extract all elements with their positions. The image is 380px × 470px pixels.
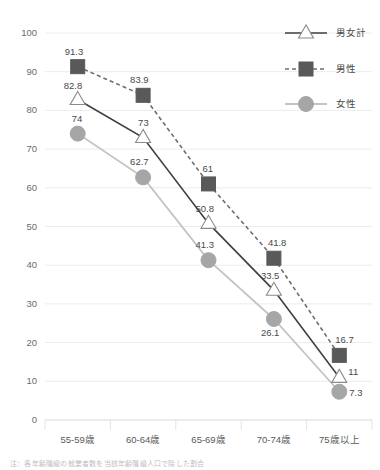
data-point-label: 41.3 [196, 239, 215, 250]
data-point-square [202, 177, 216, 191]
data-point-label: 73 [138, 117, 149, 128]
data-point-square [332, 348, 346, 362]
legend-marker-square [299, 62, 313, 76]
x-separators-group [45, 420, 372, 430]
data-point-label: 41.8 [268, 237, 287, 248]
data-point-circle [332, 384, 347, 399]
data-point-square [71, 60, 85, 74]
legend-marker-triangle [299, 25, 314, 38]
y-axis-tick-label: 40 [26, 259, 37, 270]
x-axis-ticks-group: 55-59歳60-64歳65-69歳70-74歳75歳以上 [61, 434, 360, 445]
x-axis-tick-label: 75歳以上 [319, 434, 360, 445]
data-point-label: 7.3 [349, 387, 362, 398]
legend-item-label: 女性 [336, 98, 356, 109]
point-labels-group: 82.87350.833.51191.383.96141.816.77462.7… [64, 46, 363, 398]
x-axis-tick-label: 60-64歳 [126, 434, 160, 445]
y-axis-tick-label: 80 [26, 104, 37, 115]
legend-item-label: 男女計 [336, 27, 366, 38]
data-point-label: 83.9 [130, 74, 149, 85]
x-axis-tick-label: 55-59歳 [61, 434, 95, 445]
data-point-label: 62.7 [130, 156, 149, 167]
data-point-triangle [136, 129, 151, 142]
legend-item-label: 男性 [336, 63, 356, 74]
data-point-label: 26.1 [261, 327, 280, 338]
y-axis-tick-label: 100 [21, 27, 37, 38]
data-point-label: 11 [348, 366, 358, 377]
data-point-circle [136, 170, 151, 185]
y-axis-tick-label: 60 [26, 182, 37, 193]
y-axis-tick-label: 20 [26, 337, 37, 348]
x-axis-tick-label: 65-69歳 [191, 434, 225, 445]
y-axis-tick-label: 10 [26, 375, 37, 386]
data-point-label: 74 [72, 113, 83, 124]
legend: 男女計男性女性 [285, 25, 366, 112]
data-point-label: 61 [203, 163, 214, 174]
y-axis-tick-label: 30 [26, 298, 37, 309]
data-point-label: 82.8 [64, 80, 82, 91]
data-point-label: 33.5 [261, 270, 280, 281]
x-axis-tick-label: 70-74歳 [257, 434, 291, 445]
y-axis-tick-label: 70 [26, 143, 37, 154]
y-axis-tick-label: 0 [32, 414, 37, 425]
data-point-triangle [70, 92, 85, 105]
data-point-label: 16.7 [335, 334, 354, 345]
legend-marker-circle [299, 97, 314, 112]
data-point-circle [70, 126, 85, 141]
data-point-label: 50.8 [196, 203, 215, 214]
y-axis-tick-label: 50 [26, 221, 37, 232]
line-chart: 0102030405060708090100 55-59歳60-64歳65-69… [0, 0, 380, 470]
chart-footnote: 注：各年齢階級の就業者数を当該年齢階級人口で除した割合 [10, 458, 204, 468]
data-point-square [267, 251, 281, 265]
chart-container: 0102030405060708090100 55-59歳60-64歳65-69… [0, 0, 380, 470]
y-axis-tick-label: 90 [26, 66, 37, 77]
data-point-square [136, 88, 150, 102]
data-point-circle [201, 253, 216, 268]
data-point-label: 91.3 [65, 46, 84, 57]
data-point-circle [266, 311, 281, 326]
y-axis-ticks-group: 0102030405060708090100 [21, 27, 37, 425]
